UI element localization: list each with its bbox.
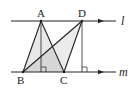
arrow-l-icon (98, 19, 104, 23)
point-a (40, 20, 42, 22)
label-d: D (78, 7, 86, 19)
right-angle-d-icon (82, 67, 87, 72)
label-line-m: m (119, 65, 128, 79)
arrow-m-icon (98, 70, 104, 74)
label-c: C (60, 74, 67, 86)
point-d (81, 20, 83, 22)
label-line-l: l (121, 14, 125, 28)
label-b: B (17, 74, 24, 86)
point-b (22, 71, 24, 73)
label-a: A (37, 7, 45, 19)
geometry-figure: A D B C l m (0, 0, 138, 90)
point-c (63, 71, 65, 73)
